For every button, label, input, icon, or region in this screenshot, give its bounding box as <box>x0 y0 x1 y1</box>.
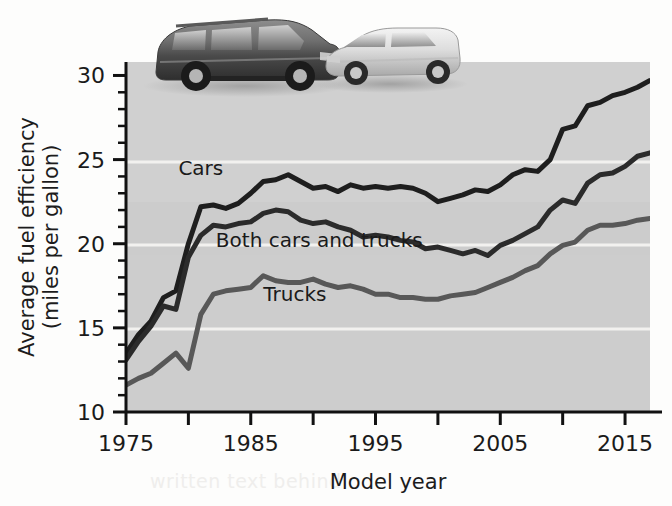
y-axis-tick-labels: 1015202530 <box>77 63 105 425</box>
x-axis-ticks <box>126 412 625 425</box>
y-axis-title-line1: Average fuel efficiency <box>15 117 39 357</box>
suv-wheel-rear-rim <box>189 69 203 83</box>
chart-svg: 1015202530 19751985199520052015 CarsBoth… <box>0 0 672 506</box>
x-axis-tick-labels: 19751985199520052015 <box>98 431 653 456</box>
x-tick-label-1995: 1995 <box>348 431 404 456</box>
sedan-window-rear <box>344 33 386 47</box>
sedan-wheel-front-rim <box>432 66 444 78</box>
x-tick-label-1975: 1975 <box>98 431 154 456</box>
suv-wheel-front-rim <box>293 69 307 83</box>
x-tick-label-1985: 1985 <box>223 431 279 456</box>
y-tick-label-15: 15 <box>77 316 105 341</box>
sedan-photo <box>312 28 468 93</box>
suv-window-mid <box>211 27 252 50</box>
suv-window-rear <box>172 30 206 50</box>
sedan-wheel-rear-rim <box>350 67 362 79</box>
y-tick-label-30: 30 <box>77 63 105 88</box>
series-label-both-cars-and-trucks: Both cars and trucks <box>216 228 423 252</box>
x-axis-title: Model year <box>330 470 447 494</box>
series-label-trucks: Trucks <box>262 282 326 306</box>
x-tick-label-2015: 2015 <box>597 431 653 456</box>
y-tick-label-20: 20 <box>77 232 105 257</box>
y-axis-ticks <box>113 75 126 412</box>
y-axis-title-line2: (miles per gallon) <box>39 145 63 330</box>
fuel-efficiency-chart-figure: I can't tell written text behind <box>0 0 672 506</box>
x-tick-label-2005: 2005 <box>472 431 528 456</box>
y-tick-label-25: 25 <box>77 148 105 173</box>
y-tick-label-10: 10 <box>77 400 105 425</box>
series-label-cars: Cars <box>178 156 223 180</box>
sedan-taillight <box>327 56 340 63</box>
